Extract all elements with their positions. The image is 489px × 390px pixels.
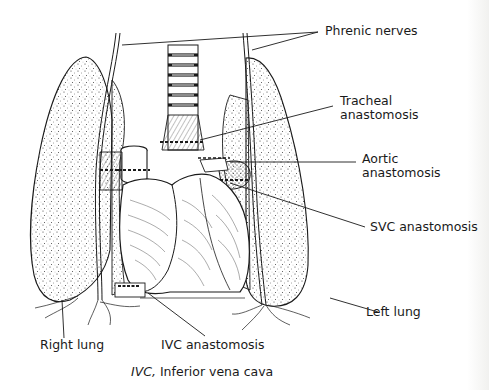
heart xyxy=(115,174,249,297)
label-ivc-anastomosis: IVC anastomosis xyxy=(161,338,265,352)
leader-phrenic-right xyxy=(122,32,318,45)
figure-caption: IVC, Inferior vena cava xyxy=(131,364,273,379)
label-aortic-anastomosis: Aortic anastomosis xyxy=(362,152,441,180)
label-aortic-line2: anastomosis xyxy=(362,166,441,180)
label-svc-anastomosis: SVC anastomosis xyxy=(370,220,478,234)
label-phrenic-nerves: Phrenic nerves xyxy=(325,24,418,38)
trachea xyxy=(160,45,205,150)
anatomy-illustration xyxy=(0,0,489,390)
label-aortic-line1: Aortic xyxy=(362,152,441,166)
label-tracheal-line1: Tracheal xyxy=(340,94,419,108)
caption-definition: Inferior vena cava xyxy=(156,364,273,379)
label-right-lung: Right lung xyxy=(40,338,104,352)
leader-ivc xyxy=(148,293,205,336)
caption-abbreviation: IVC, xyxy=(131,364,156,379)
label-left-lung: Left lung xyxy=(366,305,421,319)
leader-phrenic-left xyxy=(252,32,318,50)
label-tracheal-anastomosis: Tracheal anastomosis xyxy=(340,94,419,122)
aorta xyxy=(118,146,150,183)
leader-right-lung xyxy=(62,300,64,338)
label-tracheal-line2: anastomosis xyxy=(340,108,419,122)
